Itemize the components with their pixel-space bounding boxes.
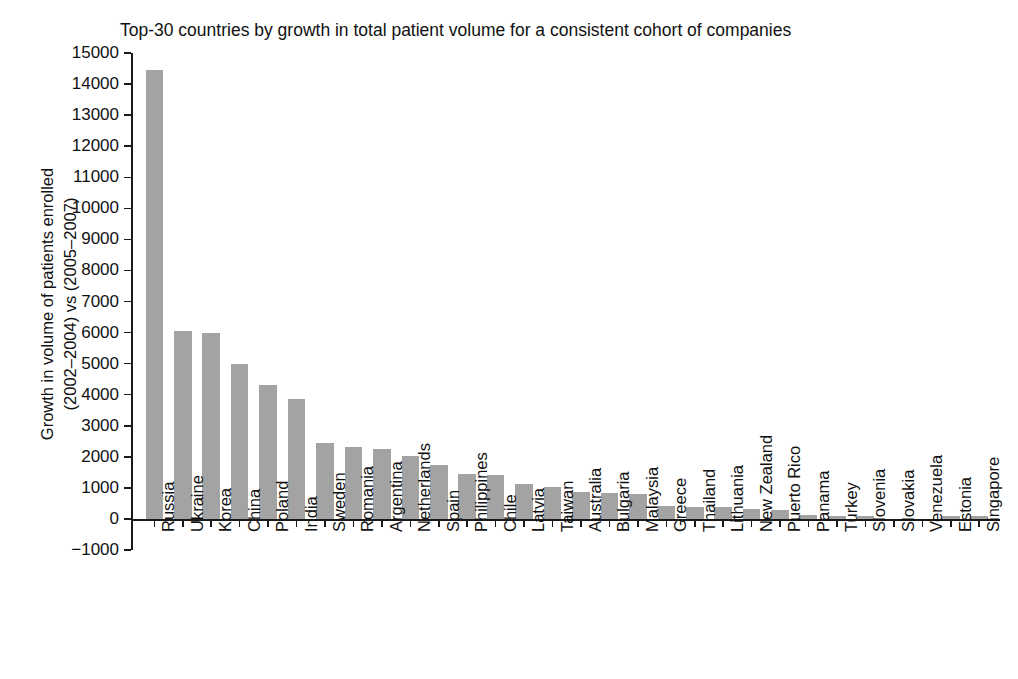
y-axis-tick-label: 7000	[0, 293, 119, 310]
x-axis-label: Russia	[160, 482, 177, 532]
x-axis-tick	[751, 519, 753, 527]
x-axis-label: Netherlands	[416, 443, 433, 532]
y-axis-tick	[124, 394, 131, 396]
x-axis-tick	[381, 519, 383, 527]
y-axis-tick-label: 3000	[0, 417, 119, 434]
y-axis-tick-label: 13000	[0, 106, 119, 123]
x-axis-label: Chile	[502, 494, 519, 532]
y-axis-tick	[124, 177, 131, 179]
y-axis-tick-label: 1000	[0, 479, 119, 496]
y-axis-tick-label: 2000	[0, 448, 119, 465]
y-axis-tick-label: 9000	[0, 230, 119, 247]
x-axis-tick	[296, 519, 298, 527]
x-axis-tick	[836, 519, 838, 527]
chart-title: Top-30 countries by growth in total pati…	[120, 20, 1000, 40]
x-axis-tick	[353, 519, 355, 527]
x-axis-tick	[495, 519, 497, 527]
y-axis-tick-label: 4000	[0, 386, 119, 403]
y-axis-tick	[124, 363, 131, 365]
y-axis-line	[131, 53, 133, 550]
x-axis-tick	[978, 519, 980, 527]
x-axis-label: Lithuania	[729, 465, 746, 532]
x-axis-tick	[580, 519, 582, 527]
x-axis-tick	[182, 519, 184, 527]
x-axis-label: Panama	[815, 470, 832, 531]
y-axis-tick-label: 6000	[0, 324, 119, 341]
x-axis-tick	[865, 519, 867, 527]
y-axis-tick-label: 8000	[0, 261, 119, 278]
x-axis-label: Spain	[445, 490, 462, 532]
x-axis-label: Bulgaria	[615, 471, 632, 532]
x-axis-tick	[267, 519, 269, 527]
y-axis-tick	[124, 239, 131, 241]
y-axis-tick-label: 12000	[0, 137, 119, 154]
x-axis-label: Ukraine	[189, 475, 206, 532]
x-axis-label: China	[246, 489, 263, 532]
x-axis-label: Slovenia	[871, 469, 888, 532]
x-axis-label: Australia	[587, 468, 604, 532]
y-axis-tick-label: −1000	[0, 541, 119, 558]
x-axis-tick	[893, 519, 895, 527]
chart-figure: Top-30 countries by growth in total pati…	[0, 0, 1018, 679]
x-axis-tick	[694, 519, 696, 527]
x-axis-label: Poland	[274, 481, 291, 532]
x-axis-tick	[324, 519, 326, 527]
y-axis-tick	[124, 487, 131, 489]
x-axis-tick	[950, 519, 952, 527]
x-axis-label: Argentina	[388, 461, 405, 532]
y-axis-tick	[124, 52, 131, 54]
x-axis-tick	[239, 519, 241, 527]
x-axis-tick	[922, 519, 924, 527]
x-axis-label: Taiwan	[559, 481, 576, 532]
x-axis-label: Greece	[672, 478, 689, 532]
y-axis-tick	[124, 456, 131, 458]
y-axis-tick-label: 0	[0, 510, 119, 527]
y-axis-tick	[124, 208, 131, 210]
y-axis-tick	[124, 425, 131, 427]
x-axis-tick	[466, 519, 468, 527]
x-axis-label: Puerto Rico	[786, 446, 803, 532]
y-axis-tick-label: 14000	[0, 75, 119, 92]
plot-area: 1500014000130001200011000100009000800070…	[131, 53, 1000, 550]
x-axis-label: India	[303, 496, 320, 532]
y-axis-tick	[124, 518, 131, 520]
y-axis-tick	[124, 301, 131, 303]
y-axis-tick	[124, 270, 131, 272]
x-axis-label: Slovakia	[900, 470, 917, 532]
y-axis-tick	[124, 549, 131, 551]
x-axis-label: Turkey	[843, 482, 860, 532]
y-axis-tick	[124, 83, 131, 85]
y-axis-tick-label: 10000	[0, 199, 119, 216]
x-axis-tick	[438, 519, 440, 527]
x-axis-label: Thailand	[701, 469, 718, 532]
x-axis-tick	[609, 519, 611, 527]
x-axis-tick	[666, 519, 668, 527]
x-axis-label: Latvia	[530, 488, 547, 532]
x-axis-label: Estonia	[957, 477, 974, 532]
y-axis-tick	[124, 145, 131, 147]
x-axis-label: Korea	[217, 488, 234, 532]
x-axis-label: Venezuela	[928, 455, 945, 532]
y-axis-tick-label: 5000	[0, 355, 119, 372]
x-axis-tick	[154, 519, 156, 527]
x-axis-tick	[552, 519, 554, 527]
x-axis-tick	[722, 519, 724, 527]
x-axis-tick	[808, 519, 810, 527]
y-axis-tick	[124, 332, 131, 334]
x-axis-label: Romania	[359, 466, 376, 532]
bar	[146, 70, 164, 519]
x-axis-tick	[637, 519, 639, 527]
y-axis-tick	[124, 114, 131, 116]
x-axis-tick	[779, 519, 781, 527]
x-axis-label: Singapore	[985, 457, 1002, 532]
y-axis-tick-label: 15000	[0, 44, 119, 61]
x-axis-label: Malaysia	[644, 467, 661, 532]
x-axis-label: New Zealand	[758, 435, 775, 532]
x-axis-tick	[523, 519, 525, 527]
x-axis-label: Philippines	[473, 452, 490, 532]
x-axis-tick	[210, 519, 212, 527]
x-axis-label: Sweden	[331, 472, 348, 532]
x-axis-tick	[410, 519, 412, 527]
y-axis-tick-label: 11000	[0, 168, 119, 185]
